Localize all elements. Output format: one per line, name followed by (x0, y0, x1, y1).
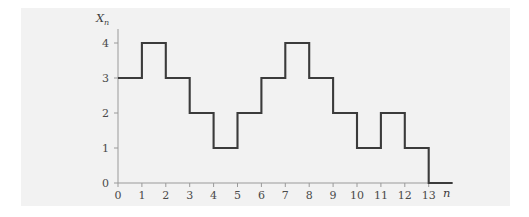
x-tick-label: 6 (258, 189, 265, 202)
x-tick-label: 5 (234, 189, 241, 202)
x-tick-label: 12 (398, 189, 412, 202)
x-tick-label: 13 (422, 189, 436, 202)
x-ticks-group (118, 183, 429, 187)
x-tick-label: 3 (186, 189, 193, 202)
step-chart-svg: 012345678910111213 01234 X n n (21, 8, 510, 206)
x-tick-label: 1 (138, 189, 145, 202)
y-tick-label: 4 (102, 37, 109, 50)
y-tick-label: 1 (102, 142, 109, 155)
x-tick-label: 11 (374, 189, 388, 202)
y-ticks-group (114, 43, 118, 183)
y-axis-title-subscript: n (104, 18, 109, 27)
x-axis-title: n (443, 186, 450, 200)
y-tick-label: 0 (102, 177, 109, 190)
y-tick-labels-group: 01234 (102, 37, 109, 190)
step-series-path (118, 43, 453, 183)
y-tick-label: 2 (102, 107, 109, 120)
figure-panel: 012345678910111213 01234 X n n (21, 8, 510, 206)
y-tick-label: 3 (102, 72, 109, 85)
x-tick-label: 0 (115, 189, 122, 202)
x-tick-label: 4 (210, 189, 217, 202)
x-tick-label: 8 (306, 189, 313, 202)
x-tick-label: 7 (282, 189, 289, 202)
x-tick-label: 10 (350, 189, 364, 202)
x-tick-label: 2 (162, 189, 169, 202)
plot-area: 012345678910111213 01234 X n n (21, 8, 510, 206)
x-tick-label: 9 (330, 189, 337, 202)
x-tick-labels-group: 012345678910111213 (115, 189, 436, 202)
